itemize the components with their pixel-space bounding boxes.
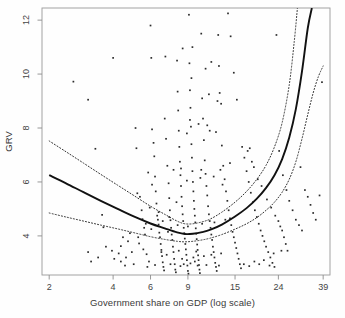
data-point xyxy=(214,257,216,259)
data-point xyxy=(177,91,179,93)
data-point xyxy=(183,263,185,265)
data-point xyxy=(192,170,194,172)
data-point xyxy=(224,219,226,221)
data-point xyxy=(194,215,196,217)
data-point xyxy=(191,77,193,79)
y-tick-label: 10 xyxy=(21,66,31,82)
data-point xyxy=(184,238,186,240)
data-point xyxy=(87,99,89,101)
data-point xyxy=(244,157,246,159)
data-point xyxy=(172,246,174,248)
data-point xyxy=(189,62,191,64)
data-point xyxy=(225,191,227,193)
data-point xyxy=(176,60,178,62)
data-point xyxy=(200,33,202,35)
x-tick-label: 39 xyxy=(318,282,328,292)
data-point xyxy=(248,181,250,183)
data-point xyxy=(247,150,249,152)
data-point xyxy=(295,219,297,221)
data-point xyxy=(180,265,182,267)
data-point xyxy=(269,265,271,267)
data-point xyxy=(193,257,195,259)
data-point xyxy=(229,162,231,164)
data-point xyxy=(189,89,191,91)
data-point xyxy=(254,209,256,211)
data-point xyxy=(182,48,184,50)
data-point xyxy=(227,13,229,15)
data-point xyxy=(111,250,113,252)
data-point xyxy=(182,220,184,222)
data-point xyxy=(156,215,158,217)
data-point xyxy=(202,118,204,120)
data-point xyxy=(267,251,269,253)
data-point xyxy=(258,223,260,225)
data-point xyxy=(230,224,232,226)
data-point xyxy=(143,227,145,229)
data-point xyxy=(186,259,188,261)
data-point xyxy=(254,261,256,263)
data-point xyxy=(145,223,147,225)
data-point xyxy=(235,247,237,249)
data-point xyxy=(251,161,253,163)
data-point xyxy=(163,266,165,268)
data-point xyxy=(210,227,212,229)
data-point xyxy=(170,219,172,221)
data-point xyxy=(189,119,191,121)
data-point xyxy=(87,251,89,253)
data-point xyxy=(219,92,221,94)
data-point xyxy=(285,243,287,245)
data-point xyxy=(179,161,181,163)
data-point xyxy=(168,197,170,199)
data-point xyxy=(181,258,183,260)
data-point xyxy=(150,228,152,230)
data-point xyxy=(201,98,203,100)
data-point xyxy=(166,165,168,167)
data-point xyxy=(173,251,175,253)
data-point xyxy=(165,56,167,58)
data-point xyxy=(136,192,138,194)
data-point xyxy=(182,213,184,215)
data-point xyxy=(192,181,194,183)
data-point xyxy=(214,222,216,224)
data-point xyxy=(188,14,190,16)
data-point xyxy=(203,255,205,257)
data-point xyxy=(216,270,218,272)
data-point xyxy=(118,253,120,255)
data-point xyxy=(194,261,196,263)
data-point xyxy=(212,246,214,248)
data-point xyxy=(278,220,280,222)
data-point xyxy=(287,250,289,252)
data-point xyxy=(281,230,283,232)
data-point xyxy=(188,273,190,275)
data-point xyxy=(90,261,92,263)
data-point xyxy=(279,226,281,228)
data-point xyxy=(122,236,124,238)
x-tick-label: 6 xyxy=(148,282,153,292)
y-tick-label: 12 xyxy=(21,12,31,28)
data-point xyxy=(153,142,155,144)
data-point xyxy=(199,269,201,271)
data-point xyxy=(180,168,182,170)
data-point xyxy=(148,261,150,263)
data-point xyxy=(233,236,235,238)
data-point xyxy=(217,100,219,102)
data-point xyxy=(173,258,175,260)
data-point xyxy=(142,249,144,251)
data-point xyxy=(178,130,180,132)
data-point xyxy=(243,263,245,265)
data-point xyxy=(170,227,172,229)
data-point xyxy=(113,258,115,260)
data-point xyxy=(210,254,212,256)
data-point xyxy=(265,246,267,248)
data-point xyxy=(215,131,217,133)
data-point xyxy=(198,123,200,125)
data-point xyxy=(282,174,284,176)
data-point xyxy=(206,264,208,266)
data-point xyxy=(180,174,182,176)
data-point xyxy=(205,173,207,175)
data-point xyxy=(161,249,163,251)
data-point xyxy=(197,249,199,251)
data-point xyxy=(178,250,180,252)
data-point xyxy=(315,219,317,221)
data-point xyxy=(222,184,224,186)
